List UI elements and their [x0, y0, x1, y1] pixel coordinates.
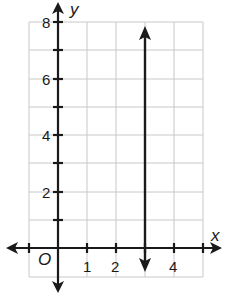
- y-tick-label-8: 8: [42, 14, 50, 31]
- x-tick-label-4: 4: [169, 258, 177, 275]
- x-axis-label: x: [210, 226, 220, 245]
- coordinate-plane: y x O 8 6 4 2 1 2 4: [0, 0, 228, 296]
- y-tick-label-2: 2: [42, 184, 50, 201]
- x-tick-label-1: 1: [83, 258, 91, 275]
- x-tick-label-2: 2: [111, 258, 119, 275]
- y-axis-label: y: [69, 0, 80, 19]
- y-tick-label-6: 6: [42, 71, 50, 88]
- grid: [29, 22, 203, 277]
- origin-label: O: [38, 250, 51, 269]
- y-axis: [52, 2, 64, 293]
- line-x-equals-3: [139, 26, 151, 272]
- y-tick-label-4: 4: [42, 127, 50, 144]
